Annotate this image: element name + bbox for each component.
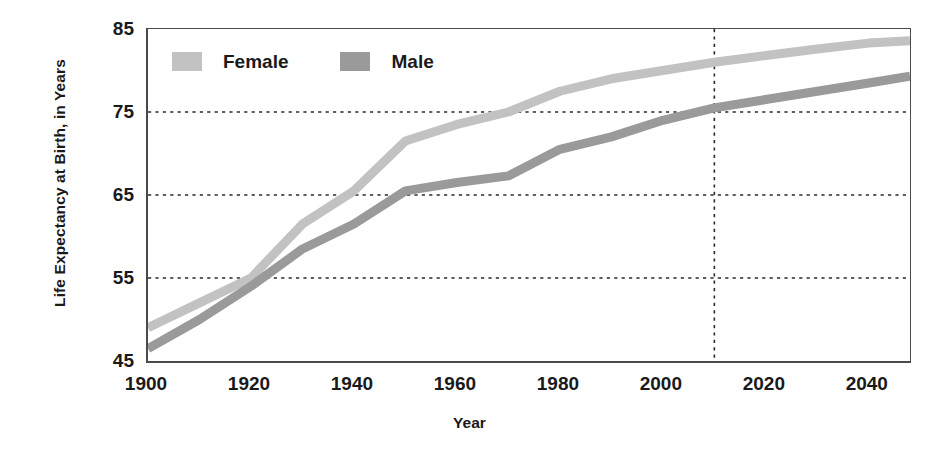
y-tick-label-85: 85 xyxy=(82,19,134,38)
y-tick-label-45: 45 xyxy=(82,351,134,370)
y-axis-title: Life Expectancy at Birth, in Years xyxy=(51,3,69,363)
gridlines xyxy=(148,112,910,278)
legend-label-female: Female xyxy=(223,52,288,71)
series-line-female xyxy=(148,41,910,328)
legend-spacer xyxy=(288,61,340,62)
legend-item-female: Female xyxy=(172,52,288,71)
y-tick-label-75: 75 xyxy=(82,102,134,121)
x-tick-label-1920: 1920 xyxy=(204,374,294,393)
x-tick-label-2040: 2040 xyxy=(822,374,912,393)
x-tick-label-2020: 2020 xyxy=(719,374,809,393)
plot-svg xyxy=(148,29,910,361)
series-line-male xyxy=(148,76,910,348)
y-tick-label-65: 65 xyxy=(82,185,134,204)
legend-swatch-male xyxy=(340,52,370,71)
life-expectancy-chart: Life Expectancy at Birth, in Years 45556… xyxy=(0,0,939,452)
chart-legend: Female Male xyxy=(172,52,434,71)
x-tick-label-1940: 1940 xyxy=(307,374,397,393)
legend-label-male: Male xyxy=(391,52,433,71)
x-tick-label-2000: 2000 xyxy=(616,374,706,393)
plot-area xyxy=(146,28,911,363)
x-axis-tick-labels: 19001920194019601980200020202040 xyxy=(0,374,939,404)
x-tick-label-1960: 1960 xyxy=(410,374,500,393)
x-tick-label-1980: 1980 xyxy=(513,374,603,393)
x-tick-label-1900: 1900 xyxy=(101,374,191,393)
legend-item-male: Male xyxy=(340,52,433,71)
legend-swatch-female xyxy=(172,52,202,71)
x-axis-title: Year xyxy=(0,414,939,432)
y-tick-label-55: 55 xyxy=(82,268,134,287)
data-series-lines xyxy=(148,41,910,349)
